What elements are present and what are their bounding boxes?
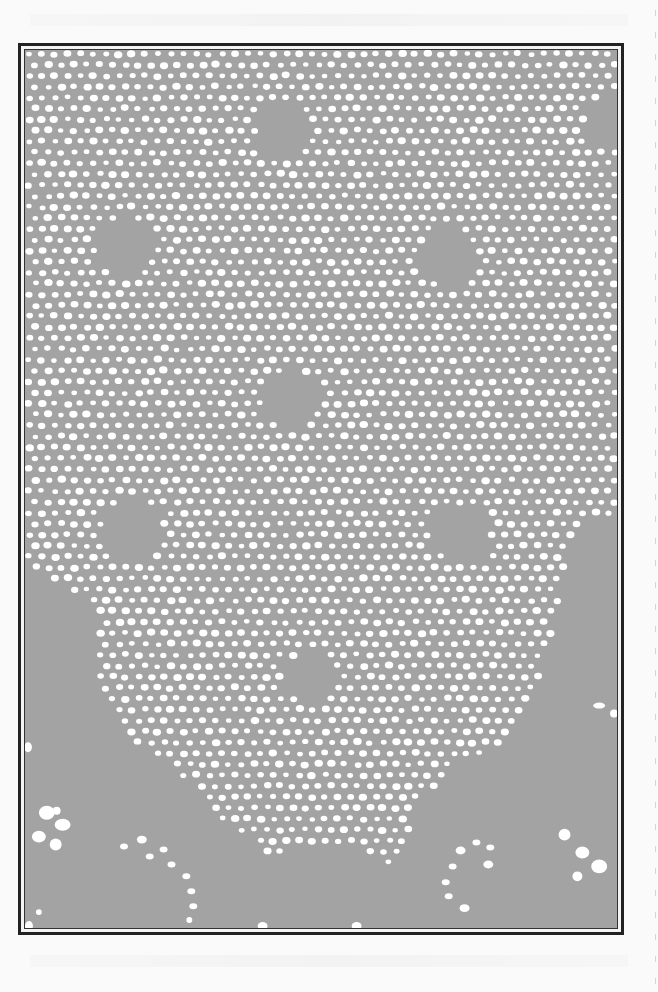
bleed-through-text — [30, 14, 628, 26]
photo-plate-frame — [18, 43, 624, 935]
bleed-through-text — [30, 955, 628, 967]
lace-photograph — [24, 49, 618, 929]
lace-image — [25, 50, 617, 928]
page-edge-mark — [655, 10, 656, 990]
scanned-page — [0, 0, 658, 992]
